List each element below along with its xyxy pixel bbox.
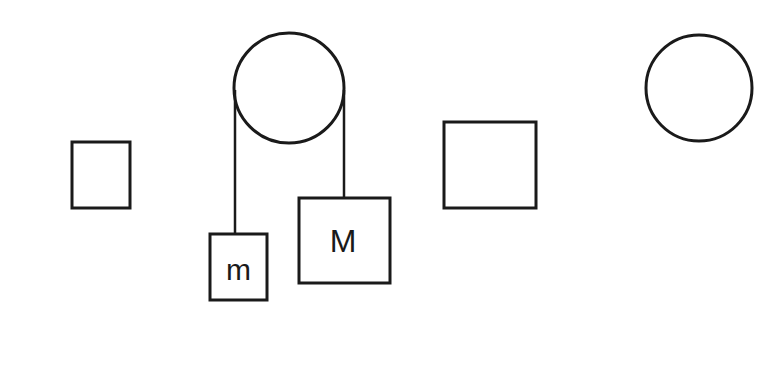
- standalone-small-box: [72, 142, 130, 208]
- mass-M: M: [299, 198, 390, 283]
- mass-m-label: m: [226, 253, 251, 286]
- standalone-large-box: [444, 122, 536, 208]
- pulley-wheel: [234, 33, 344, 143]
- mass-m: m: [210, 234, 267, 300]
- mass-M-label: M: [330, 223, 357, 259]
- pulley-diagram: m M: [0, 0, 776, 376]
- standalone-circle: [646, 35, 752, 141]
